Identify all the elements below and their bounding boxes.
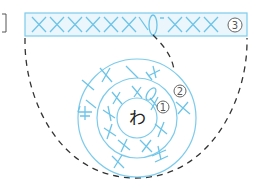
chain-stitch-icon <box>144 86 158 101</box>
top-row-band <box>25 13 247 36</box>
round-label-3: 3 <box>228 18 242 32</box>
crochet-diagram: わ 1 2 3 <box>0 0 263 188</box>
svg-text:3: 3 <box>232 20 238 31</box>
round-label-1: 1 <box>157 101 169 113</box>
bracket-mark <box>2 14 6 32</box>
svg-text:2: 2 <box>177 86 183 97</box>
round-label-2: 2 <box>174 85 186 97</box>
svg-text:1: 1 <box>160 102 166 113</box>
magic-ring-label: わ <box>129 108 146 128</box>
